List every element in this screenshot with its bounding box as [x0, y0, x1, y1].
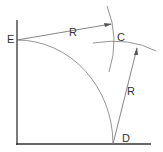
arrowhead-d: [134, 47, 138, 55]
point-label-d: D: [122, 133, 130, 144]
radius-line-e: [17, 24, 111, 40]
point-label-c: C: [117, 32, 125, 43]
point-label-e: E: [7, 34, 14, 45]
radius-label-right: R: [127, 86, 135, 97]
diagram-canvas: [0, 0, 163, 152]
radius-label-top: R: [69, 27, 77, 38]
arc-e-to-d: [17, 40, 113, 144]
arc-radius-from-e: [107, 6, 114, 72]
construction-diagram: E R C R D: [0, 0, 163, 152]
arrowhead-e: [104, 23, 112, 27]
